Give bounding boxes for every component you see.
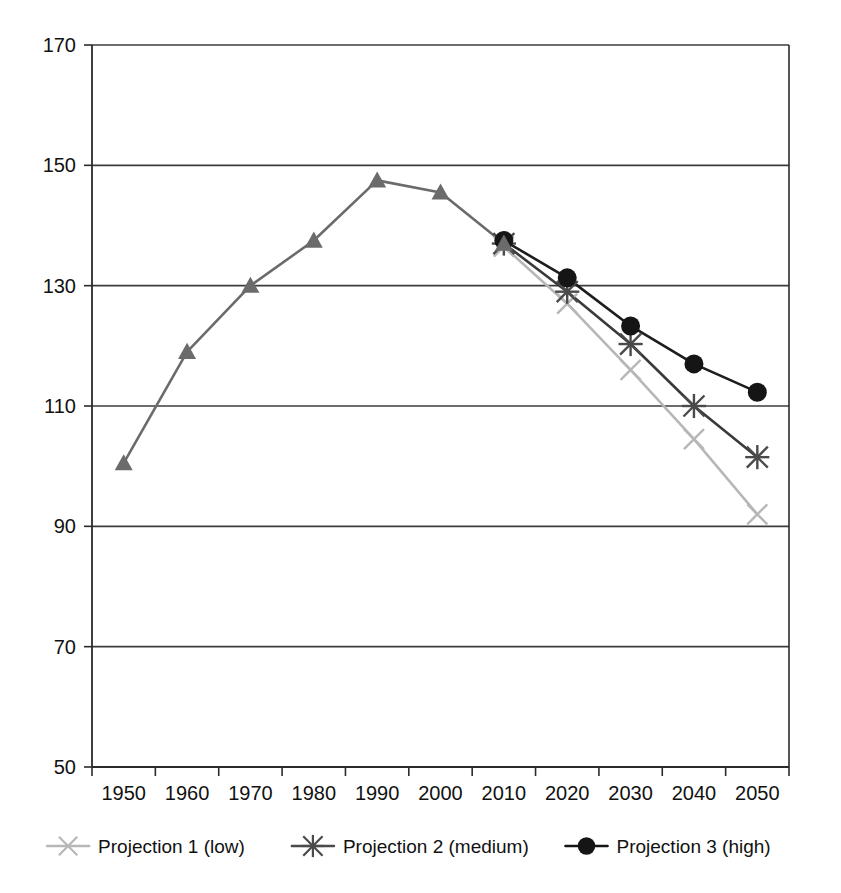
x-tick-label-1980: 1980 — [292, 782, 337, 804]
x-tick-label-2040: 2040 — [672, 782, 717, 804]
y-tick-label-50: 50 — [54, 756, 76, 778]
chart-legend[interactable]: Projection 1 (low)Projection 2 (medium)P… — [47, 835, 771, 857]
y-tick-label-170: 170 — [43, 34, 76, 56]
y-tick-label-90: 90 — [54, 515, 76, 537]
y-tick-label-110: 110 — [44, 395, 76, 417]
marker-star — [619, 332, 643, 356]
line-chart: 507090110130150170 195019601970198019902… — [0, 0, 841, 893]
chart-canvas: 507090110130150170 195019601970198019902… — [0, 0, 841, 893]
y-tick-label-130: 130 — [43, 275, 76, 297]
chart-page: 507090110130150170 195019601970198019902… — [0, 0, 841, 893]
x-tick-label-2050: 2050 — [735, 782, 780, 804]
marker-circle — [558, 268, 577, 287]
legend-label: Projection 3 (high) — [617, 836, 771, 857]
marker-star — [302, 835, 324, 857]
chart-background — [0, 0, 841, 893]
y-tick-label-70: 70 — [54, 636, 76, 658]
x-tick-label-2030: 2030 — [608, 782, 653, 804]
x-tick-label-1960: 1960 — [165, 782, 210, 804]
marker-star — [682, 394, 706, 418]
marker-circle — [748, 383, 767, 402]
legend-label: Projection 1 (low) — [98, 836, 245, 857]
marker-circle — [621, 316, 640, 335]
x-tick-label-2010: 2010 — [482, 782, 527, 804]
marker-star — [745, 445, 769, 469]
x-tick-label-1970: 1970 — [228, 782, 273, 804]
x-tick-label-2000: 2000 — [418, 782, 463, 804]
legend-label: Projection 2 (medium) — [343, 836, 529, 857]
x-tick-label-1990: 1990 — [355, 782, 400, 804]
y-tick-label-150: 150 — [43, 154, 76, 176]
x-axis-tick-labels: 1950196019701980199020002010202020302040… — [101, 782, 779, 804]
marker-circle — [578, 837, 595, 854]
marker-circle — [684, 354, 703, 373]
x-tick-label-2020: 2020 — [545, 782, 590, 804]
x-tick-label-1950: 1950 — [101, 782, 146, 804]
